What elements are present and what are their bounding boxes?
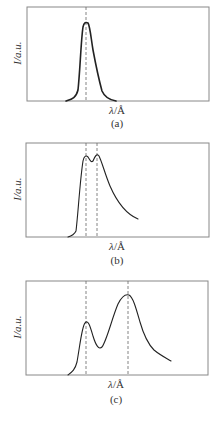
panel-c-x-axis-label: λ/Å (108, 378, 124, 390)
panel-c-caption: (c) (110, 393, 122, 405)
panel-b-x-axis-label: λ/Å (109, 240, 125, 252)
panel-b-curve (68, 155, 138, 237)
panel-b-frame (26, 143, 209, 237)
panel-c-plot (26, 281, 208, 375)
panel-a-caption: (a) (111, 117, 123, 129)
panel-b-y-axis-label: I/a.u. (11, 169, 23, 209)
panel-c-x-unit: /Å (113, 378, 124, 390)
panel-a-curve (66, 22, 116, 101)
panel-b-x-unit: /Å (114, 240, 125, 252)
panel-c-frame (26, 281, 208, 375)
panel-a-x-axis-label: λ/Å (109, 104, 125, 116)
panel-c-y-axis-label: I/a.u. (11, 307, 23, 347)
panel-a-y-axis-label: I/a.u. (11, 33, 23, 73)
panel-a-frame (27, 7, 209, 101)
panel-a-plot (27, 7, 209, 101)
panel-b-caption: (b) (111, 254, 124, 266)
panel-c-curve (68, 295, 171, 375)
figure-canvas (0, 0, 223, 424)
panel-a-x-unit: /Å (114, 104, 125, 116)
panel-b-plot (26, 143, 209, 237)
